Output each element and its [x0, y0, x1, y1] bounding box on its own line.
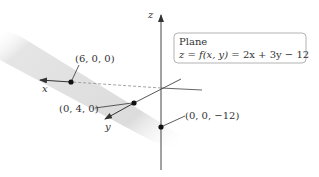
- point-x-intercept: [68, 79, 73, 84]
- horizontal-axis-line: [161, 88, 202, 90]
- label-x-intercept: (6, 0, 0): [75, 53, 115, 64]
- y-axis-label: y: [104, 121, 111, 132]
- equation-lhs: z = f(x, y): [178, 49, 228, 60]
- plane-diagram: z x y (6, 0, 0) (0, 4, 0) (0, 0, −12) Pl…: [0, 0, 319, 177]
- x-axis-label: x: [42, 83, 48, 94]
- z-axis-label: z: [147, 9, 154, 20]
- point-y-intercept: [131, 100, 136, 105]
- equation-rhs: = 2x + 3y − 12: [228, 49, 309, 60]
- label-z-intercept: (0, 0, −12): [185, 110, 239, 121]
- leader-z-intercept: [163, 116, 185, 126]
- callout-title: Plane: [179, 36, 207, 47]
- callout-equation: z = f(x, y) = 2x + 3y − 12: [178, 49, 309, 60]
- label-y-intercept: (0, 4, 0): [59, 103, 99, 114]
- y-axis-back: [134, 79, 181, 103]
- point-z-intercept: [158, 124, 163, 129]
